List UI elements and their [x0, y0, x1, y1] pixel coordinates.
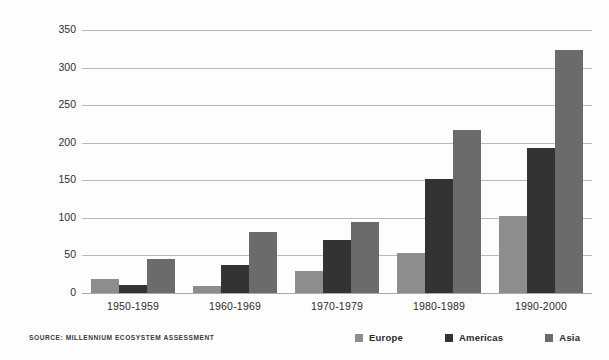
bar-asia[interactable]	[249, 232, 277, 293]
x-axis-tick-labels: 1950-19591960-19691970-19791980-19891990…	[82, 300, 592, 312]
bar-americas[interactable]	[425, 179, 453, 293]
bar-asia[interactable]	[147, 259, 175, 293]
y-axis-tick-label: 0	[36, 286, 76, 298]
bar-americas[interactable]	[527, 148, 555, 293]
legend-swatch-icon	[355, 334, 363, 342]
x-axis-tick-label: 1990-2000	[490, 300, 592, 312]
x-axis-tick-label: 1980-1989	[388, 300, 490, 312]
bar-europe[interactable]	[295, 271, 323, 293]
legend-label: Europe	[369, 332, 403, 343]
legend-item-europe[interactable]: Europe	[355, 332, 403, 343]
bar-group	[286, 30, 388, 293]
chart-page: Number of major floods 05010015020025030…	[0, 0, 609, 360]
legend-label: Americas	[459, 332, 503, 343]
bar-asia[interactable]	[453, 130, 481, 293]
legend-swatch-icon	[445, 334, 453, 342]
bar-europe[interactable]	[91, 279, 119, 293]
bar-americas[interactable]	[119, 285, 147, 293]
y-axis-tick-label: 250	[36, 98, 76, 110]
legend-item-americas[interactable]: Americas	[445, 332, 503, 343]
bar-europe[interactable]	[193, 286, 221, 293]
legend-label: Asia	[559, 332, 580, 343]
y-axis-tick-label: 50	[36, 248, 76, 260]
bar-americas[interactable]	[323, 240, 351, 293]
x-axis-tick-label: 1950-1959	[82, 300, 184, 312]
y-axis-tick-label: 350	[36, 23, 76, 35]
legend-item-asia[interactable]: Asia	[545, 332, 580, 343]
y-axis-tick-label: 150	[36, 173, 76, 185]
x-axis-tick-label: 1970-1979	[286, 300, 388, 312]
bar-groups	[82, 30, 592, 293]
chart-legend: EuropeAmericasAsia	[355, 332, 609, 343]
bar-group	[82, 30, 184, 293]
plot-area	[82, 30, 592, 293]
x-axis-tick-label: 1960-1969	[184, 300, 286, 312]
bar-asia[interactable]	[351, 222, 379, 293]
gridline	[82, 293, 592, 294]
source-caption: SOURCE: MILLENNIUM ECOSYSTEM ASSESSMENT	[29, 334, 214, 341]
y-axis-tick-label: 300	[36, 61, 76, 73]
bar-americas[interactable]	[221, 265, 249, 293]
y-axis-tick-label: 100	[36, 211, 76, 223]
bar-europe[interactable]	[397, 253, 425, 293]
bar-asia[interactable]	[555, 50, 583, 293]
bar-group	[388, 30, 490, 293]
bar-europe[interactable]	[499, 216, 527, 293]
legend-swatch-icon	[545, 334, 553, 342]
bar-group	[490, 30, 592, 293]
bar-group	[184, 30, 286, 293]
y-axis-tick-label: 200	[36, 136, 76, 148]
